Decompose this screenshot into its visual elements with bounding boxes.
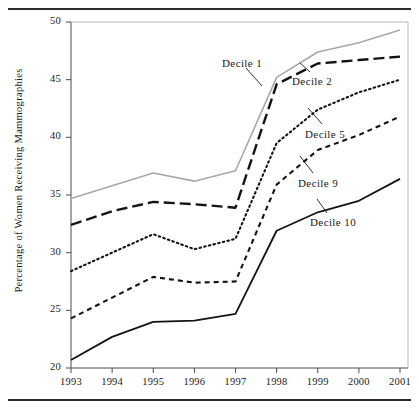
series-label-decile-5: Decile 5 [305, 128, 345, 140]
series-line-decile-2 [71, 57, 400, 225]
series-label-decile-10: Decile 10 [310, 216, 356, 228]
y-tick-label: 25 [35, 303, 61, 314]
x-tick-label: 2000 [339, 376, 379, 387]
series-label-decile-2: Decile 2 [292, 75, 332, 87]
x-tick-label: 1996 [174, 376, 214, 387]
x-tick-label: 1999 [298, 376, 338, 387]
series-line-decile-5 [71, 80, 400, 271]
plot-canvas [0, 0, 419, 411]
y-tick-label: 40 [35, 130, 61, 141]
y-tick-label: 30 [35, 246, 61, 257]
leader-line [246, 68, 262, 86]
x-tick-label: 2001 [380, 376, 419, 387]
x-tick-label: 1998 [257, 376, 297, 387]
series-label-decile-1: Decile 1 [222, 57, 262, 69]
series-label-decile-9: Decile 9 [298, 177, 338, 189]
x-tick-label: 1994 [92, 376, 132, 387]
x-tick-label: 1995 [133, 376, 173, 387]
x-tick-label: 1993 [51, 376, 91, 387]
y-tick-label: 50 [35, 15, 61, 26]
x-tick-label: 1997 [216, 376, 256, 387]
y-tick-label: 35 [35, 188, 61, 199]
y-tick-label: 45 [35, 73, 61, 84]
y-tick-label: 20 [35, 361, 61, 372]
series-line-decile-1 [71, 30, 400, 198]
mammography-decile-chart: Percentage of Women Receiving Mammograph… [0, 0, 419, 411]
